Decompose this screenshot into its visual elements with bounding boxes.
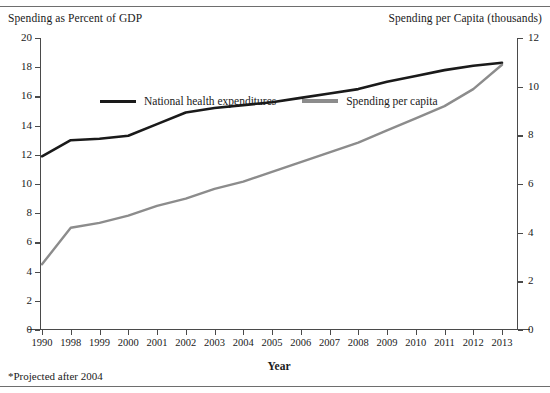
left-tick-label: 20: [6, 32, 32, 43]
right-tick-label: 6: [528, 178, 534, 189]
right-axis-title: Spending per Capita (thousands): [388, 12, 542, 24]
left-tick-label: 12: [6, 149, 32, 160]
x-tick-label: 2010: [405, 337, 426, 348]
right-tick-label: 4: [528, 227, 534, 238]
x-tick-label: 1999: [89, 337, 110, 348]
x-tick-label: 2003: [204, 337, 225, 348]
right-tick-label: 2: [528, 275, 534, 286]
x-tick-label: 2011: [434, 337, 455, 348]
legend-swatch-gray: [302, 99, 338, 102]
x-tick-label: 2009: [377, 337, 398, 348]
left-tick-label: 2: [6, 295, 32, 306]
right-tick-mark: [518, 38, 523, 39]
left-tick-label: 10: [6, 178, 32, 189]
x-tick-label: 2005: [262, 337, 283, 348]
left-tick-label: 4: [6, 266, 32, 277]
x-tick-label: 2012: [463, 337, 484, 348]
legend-item-spending-per-capita: Spending per capita: [302, 95, 437, 107]
x-tick-label: 2007: [319, 337, 340, 348]
x-tick-label: 2006: [290, 337, 311, 348]
left-tick-label: 14: [6, 120, 32, 131]
series-lines: [40, 38, 518, 330]
left-tick-label: 16: [6, 90, 32, 101]
legend-label-national-health-expenditures: National health expenditures: [144, 95, 276, 107]
chart-legend: National health expenditures Spending pe…: [100, 95, 438, 107]
x-tick-label: 2002: [175, 337, 196, 348]
x-tick-label: 1990: [32, 337, 53, 348]
right-tick-mark: [518, 281, 523, 282]
legend-swatch-black: [100, 100, 136, 103]
right-tick-mark: [518, 135, 523, 136]
x-tick-label: 2001: [147, 337, 168, 348]
left-tick-mark: [35, 330, 40, 331]
top-divider: [0, 6, 550, 7]
right-tick-label: 0: [528, 324, 534, 335]
left-axis-title: Spending as Percent of GDP: [8, 12, 142, 24]
footnote: *Projected after 2004: [8, 370, 103, 382]
right-tick-mark: [518, 330, 523, 331]
x-tick-label: 1998: [60, 337, 81, 348]
series-line-national-health-expenditures: [42, 63, 502, 156]
bottom-divider: [0, 386, 550, 387]
legend-label-spending-per-capita: Spending per capita: [346, 95, 437, 107]
x-tick-label: 2000: [118, 337, 139, 348]
right-tick-label: 10: [528, 81, 539, 92]
right-tick-mark: [518, 87, 523, 88]
right-tick-label: 12: [528, 32, 539, 43]
right-tick-label: 8: [528, 129, 534, 140]
left-tick-label: 8: [6, 207, 32, 218]
x-axis-label: Year: [40, 360, 518, 372]
x-tick-label: 2013: [492, 337, 513, 348]
right-tick-mark: [518, 233, 523, 234]
plot-area: 02468101214161820 024681012 199019981999…: [40, 38, 518, 330]
left-tick-label: 18: [6, 61, 32, 72]
x-tick-label: 2004: [233, 337, 254, 348]
left-tick-label: 6: [6, 236, 32, 247]
left-tick-label: 0: [6, 324, 32, 335]
right-tick-mark: [518, 184, 523, 185]
legend-item-national-health-expenditures: National health expenditures: [100, 95, 276, 107]
chart-figure: Spending as Percent of GDP Spending per …: [0, 0, 550, 393]
x-tick-label: 2008: [348, 337, 369, 348]
